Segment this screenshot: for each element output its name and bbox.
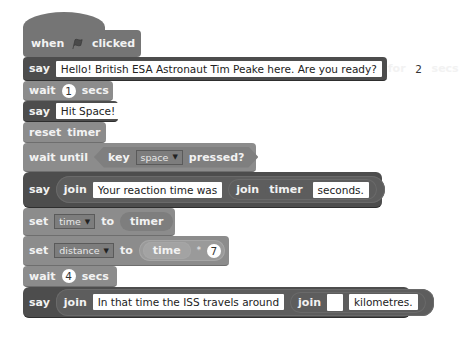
variable-dropdown-value: distance xyxy=(59,245,99,256)
secs-label: secs xyxy=(82,84,109,97)
key-dropdown[interactable]: space▼ xyxy=(136,150,183,165)
join-reporter[interactable]: join Your reaction time was join timer s… xyxy=(56,176,385,203)
join-label: join xyxy=(236,183,259,196)
join-label: join xyxy=(298,296,321,309)
wait-secs-block[interactable]: wait 4 secs xyxy=(23,266,117,287)
pressed-label: pressed? xyxy=(189,151,245,164)
key-dropdown-value: space xyxy=(141,152,169,163)
inner-join-reporter[interactable]: join kilometres. xyxy=(290,292,425,313)
say-label: say xyxy=(29,296,50,309)
wait-secs-input[interactable]: 4 xyxy=(62,269,76,283)
time-label: time xyxy=(153,244,181,257)
multiply-operator-reporter[interactable]: time * 7 xyxy=(139,240,225,261)
dropdown-arrow-icon: ▼ xyxy=(104,247,109,255)
say-join-block[interactable]: say join Your reaction time was join tim… xyxy=(23,172,382,208)
wait-until-block[interactable]: wait until key space▼ pressed? xyxy=(23,143,256,172)
timer-label: timer xyxy=(269,183,302,196)
key-label: key xyxy=(108,151,130,164)
reset-timer-block[interactable]: reset timer xyxy=(23,122,106,143)
set-variable-block[interactable]: set time▼ to timer xyxy=(23,208,175,236)
secs-label: secs xyxy=(82,270,109,283)
number-input[interactable]: 7 xyxy=(207,244,221,258)
variable-dropdown-value: time xyxy=(59,216,80,227)
say-block[interactable]: say Hit Space! xyxy=(23,101,118,122)
secs-input[interactable]: 2 xyxy=(412,62,426,76)
for-label: for xyxy=(388,62,406,75)
join-label: join xyxy=(64,296,87,309)
time-variable-reporter[interactable]: time xyxy=(143,242,191,259)
dropdown-arrow-icon: ▼ xyxy=(85,218,90,226)
say-label: say xyxy=(29,105,50,118)
set-label: set xyxy=(29,244,48,257)
join-reporter[interactable]: join In that time the ISS travels around… xyxy=(56,289,434,316)
join-text-input[interactable]: seconds. xyxy=(313,182,369,198)
say-label: say xyxy=(29,183,50,196)
dropdown-arrow-icon: ▼ xyxy=(172,153,177,161)
secs-label: secs xyxy=(432,62,459,75)
to-label: to xyxy=(101,215,114,228)
say-message-input[interactable]: Hit Space! xyxy=(56,103,120,119)
reset-label: reset xyxy=(29,126,61,139)
say-message-input[interactable]: Hello! British ESA Astronaut Tim Peake h… xyxy=(56,61,382,77)
timer-reporter[interactable]: timer xyxy=(120,212,173,231)
wait-secs-block[interactable]: wait 1 secs xyxy=(23,81,113,101)
inner-join-reporter[interactable]: join timer seconds. xyxy=(228,179,377,200)
wait-until-label: wait until xyxy=(29,151,88,164)
set-label: set xyxy=(29,215,48,228)
join-label: join xyxy=(64,183,87,196)
say-label: say xyxy=(29,62,50,75)
wait-label: wait xyxy=(29,84,56,97)
join-text-input[interactable]: In that time the ISS travels around xyxy=(93,294,284,310)
green-flag-icon xyxy=(70,36,86,52)
variable-dropdown[interactable]: time▼ xyxy=(54,214,95,229)
to-label: to xyxy=(120,244,133,257)
say-for-secs-block[interactable]: say Hello! British ESA Astronaut Tim Pea… xyxy=(23,57,387,81)
join-text-input[interactable]: kilometres. xyxy=(349,294,418,310)
variable-dropdown[interactable]: distance▼ xyxy=(54,243,114,258)
wait-label: wait xyxy=(29,270,56,283)
timer-label: timer xyxy=(67,126,100,139)
timer-reporter[interactable]: timer xyxy=(265,181,306,198)
join-text-input[interactable]: Your reaction time was xyxy=(93,182,223,198)
key-pressed-condition[interactable]: key space▼ pressed? xyxy=(94,147,259,168)
timer-label: timer xyxy=(130,215,163,228)
wait-secs-input[interactable]: 1 xyxy=(62,84,76,98)
when-flag-clicked-block[interactable]: when clicked xyxy=(23,30,141,57)
say-join-block[interactable]: say join In that time the ISS travels ar… xyxy=(23,287,410,318)
join-empty-input[interactable] xyxy=(327,294,343,311)
set-variable-block[interactable]: set distance▼ to time * 7 xyxy=(23,236,229,266)
when-label: when xyxy=(31,37,64,50)
multiply-operator: * xyxy=(197,246,201,255)
clicked-label: clicked xyxy=(92,37,135,50)
